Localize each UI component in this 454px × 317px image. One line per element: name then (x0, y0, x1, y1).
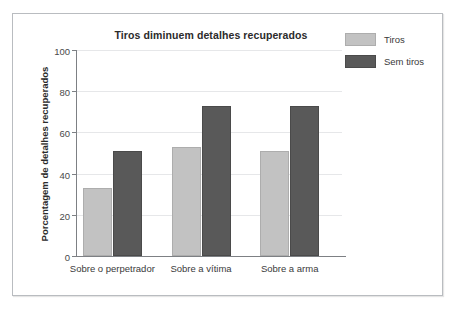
plot-area: 020406080100 Sobre o perpetradorSobre a … (76, 50, 342, 257)
legend-item-tiros: Tiros (345, 33, 443, 46)
chart-legend: Tiros Sem tiros (345, 33, 443, 77)
gridline (76, 91, 342, 92)
x-tick-label: Sobre o perpetrador (70, 263, 155, 274)
bar-tiros-0 (83, 188, 112, 256)
legend-label-tiros: Tiros (384, 34, 405, 45)
y-axis-title: Porcentagem de detalhes recuperados (37, 50, 51, 257)
y-tick-label: 60 (59, 128, 70, 139)
legend-swatch-sem-tiros (345, 55, 376, 68)
y-tick-label: 0 (65, 252, 70, 263)
y-axis-line (76, 50, 77, 257)
bar-tiros-1 (172, 147, 201, 256)
legend-swatch-tiros (345, 33, 376, 46)
y-tick-mark (72, 174, 76, 175)
y-tick-label: 100 (54, 46, 70, 57)
bar-sem-tiros-0 (113, 151, 142, 256)
x-axis-line (76, 256, 346, 257)
y-tick-mark (72, 91, 76, 92)
y-tick-label: 40 (59, 169, 70, 180)
chart-title: Tiros diminuem detalhes recuperados (91, 29, 331, 41)
bar-sem-tiros-1 (202, 106, 231, 256)
x-tick-label: Sobre a vítima (170, 263, 231, 274)
y-tick-mark (72, 132, 76, 133)
legend-item-sem-tiros: Sem tiros (345, 55, 443, 68)
bar-tiros-2 (260, 151, 289, 256)
chart-figure: Tiros diminuem detalhes recuperados Tiro… (12, 13, 443, 296)
y-tick-mark (72, 50, 76, 51)
y-tick-label: 20 (59, 210, 70, 221)
y-tick-mark (72, 215, 76, 216)
legend-label-sem-tiros: Sem tiros (384, 56, 424, 67)
y-axis-title-text: Porcentagem de detalhes recuperados (39, 66, 50, 241)
x-tick-label: Sobre a arma (261, 263, 319, 274)
bar-sem-tiros-2 (290, 106, 319, 256)
y-tick-mark (72, 256, 76, 257)
y-tick-label: 80 (59, 87, 70, 98)
gridline (76, 50, 342, 51)
